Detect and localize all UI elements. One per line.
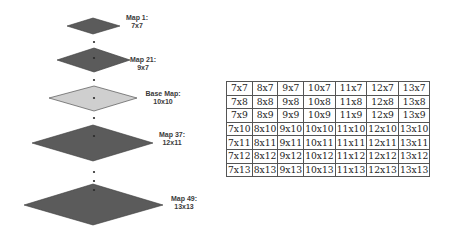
map-size: 13x13	[166, 203, 202, 211]
center-dot	[93, 135, 95, 137]
map-size-grid: 7x7 8x7 9x7 10x7 11x7 12x7 13x7 7x8 8x8 …	[226, 81, 430, 177]
table-cell: 10x7	[304, 82, 336, 96]
table-cell: 12x13	[367, 163, 399, 177]
table-cell: 9x11	[278, 136, 304, 150]
table-cell: 11x11	[335, 136, 367, 150]
map-size: 9x7	[127, 64, 159, 72]
map-name: Map 49:	[166, 195, 202, 203]
table-cell: 9x7	[278, 82, 304, 96]
table-cell: 11x9	[335, 109, 367, 123]
map-37-diamond	[32, 125, 153, 161]
center-dot	[93, 97, 95, 99]
map-name: Map 1:	[122, 14, 152, 22]
table-cell: 8x8	[252, 95, 278, 109]
ellipsis-dot	[93, 41, 95, 43]
map-21-label: Map 21: 9x7	[127, 56, 159, 72]
table-cell: 10x13	[304, 163, 336, 177]
table-cell: 7x8	[227, 95, 253, 109]
map-37-label: Map 37: 12x11	[154, 131, 190, 147]
map-size: 7x7	[122, 22, 152, 30]
table-cell: 8x7	[252, 82, 278, 96]
table-cell: 12x10	[367, 122, 399, 136]
table-row: 7x13 8x13 9x13 10x13 11x13 12x13 13x13	[227, 163, 430, 177]
table-cell: 12x7	[367, 82, 399, 96]
table-cell: 13x7	[398, 82, 430, 96]
table-row: 7x12 8x12 9x12 10x12 11x12 12x12 13x12	[227, 149, 430, 163]
base-map-diamond	[49, 86, 137, 111]
table-cell: 13x12	[398, 149, 430, 163]
map-1-diamond	[67, 18, 120, 34]
table-cell: 9x8	[278, 95, 304, 109]
table-cell: 7x7	[227, 82, 253, 96]
table-cell: 11x8	[335, 95, 367, 109]
base-map-label: Base Map: 10x10	[142, 90, 184, 106]
table-cell: 12x12	[367, 149, 399, 163]
table-cell: 11x13	[335, 163, 367, 177]
table-row: 7x8 8x8 9x8 10x8 11x8 12x8 13x8	[227, 95, 430, 109]
ellipsis-dot	[93, 117, 95, 119]
table-cell: 7x10	[227, 122, 253, 136]
table-cell: 10x8	[304, 95, 336, 109]
table-cell: 8x9	[252, 109, 278, 123]
table-cell: 7x12	[227, 149, 253, 163]
table-cell: 13x9	[398, 109, 430, 123]
table-cell: 8x10	[252, 122, 278, 136]
table-row: 7x11 8x11 9x11 10x11 11x11 12x11 13x11	[227, 136, 430, 150]
table-cell: 13x11	[398, 136, 430, 150]
map-name: Map 37:	[154, 131, 190, 139]
table-cell: 10x9	[304, 109, 336, 123]
table-cell: 7x13	[227, 163, 253, 177]
table-cell: 9x9	[278, 109, 304, 123]
table-cell: 9x10	[278, 122, 304, 136]
map-1-label: Map 1: 7x7	[122, 14, 152, 30]
map-21-diamond	[57, 48, 130, 72]
table-cell: 11x10	[335, 122, 367, 136]
table-cell: 12x11	[367, 136, 399, 150]
table-cell: 8x13	[252, 163, 278, 177]
table-cell: 12x9	[367, 109, 399, 123]
table-row: 7x10 8x10 9x10 10x10 11x10 12x10 13x10	[227, 122, 430, 136]
map-name: Map 21:	[127, 56, 159, 64]
table-cell: 9x12	[278, 149, 304, 163]
table-cell: 11x12	[335, 149, 367, 163]
map-size: 12x11	[154, 139, 190, 147]
table-cell: 13x10	[398, 122, 430, 136]
ellipsis-dot	[93, 171, 95, 173]
table-row: 7x7 8x7 9x7 10x7 11x7 12x7 13x7	[227, 82, 430, 96]
map-size: 10x10	[142, 98, 184, 106]
ellipsis-dot	[93, 79, 95, 81]
table-cell: 12x8	[367, 95, 399, 109]
table-cell: 9x13	[278, 163, 304, 177]
table-cell: 8x12	[252, 149, 278, 163]
table-cell: 10x11	[304, 136, 336, 150]
table-cell: 13x8	[398, 95, 430, 109]
table-cell: 13x13	[398, 163, 430, 177]
table-cell: 7x11	[227, 136, 253, 150]
table-cell: 10x12	[304, 149, 336, 163]
map-name: Base Map:	[142, 90, 184, 98]
table-cell: 8x11	[252, 136, 278, 150]
table-row: 7x9 8x9 9x9 10x9 11x9 12x9 13x9	[227, 109, 430, 123]
table-cell: 10x10	[304, 122, 336, 136]
table-cell: 11x7	[335, 82, 367, 96]
table-cell: 7x9	[227, 109, 253, 123]
ellipsis-dot	[93, 180, 95, 182]
map-49-label: Map 49: 13x13	[166, 195, 202, 211]
center-dot	[93, 189, 95, 191]
center-dot	[93, 57, 95, 59]
